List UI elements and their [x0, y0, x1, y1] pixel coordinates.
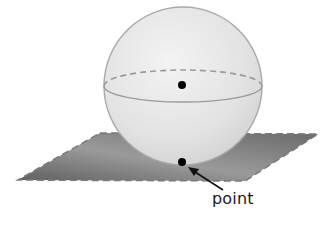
tangent-point [178, 158, 186, 166]
point-label: point [212, 189, 254, 208]
sphere [104, 7, 262, 165]
center-point [178, 81, 186, 89]
sphere-plane-diagram [0, 0, 326, 226]
